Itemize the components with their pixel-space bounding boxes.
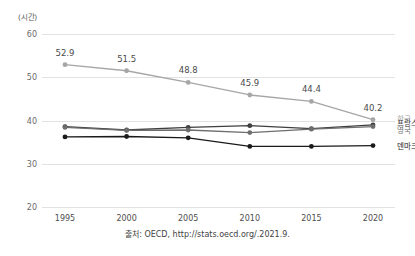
data-point [247, 130, 252, 135]
data-point [186, 128, 191, 133]
y-axis-tick-label: 40 [27, 116, 37, 125]
y-axis-unit-label: (시간) [18, 11, 37, 22]
data-point-label: 52.9 [56, 48, 75, 58]
plot-area: 6050403020 199520002005201020152020 52.9… [42, 34, 395, 207]
data-point [247, 144, 252, 149]
series-영국 [63, 124, 376, 135]
x-axis-tick-label: 2000 [116, 214, 136, 223]
source-caption: 출처: OECD, http://stats.oecd.org/.2021.9. [0, 228, 415, 239]
y-axis-tick-label: 20 [27, 203, 37, 212]
x-axis-tick-label: 2020 [363, 214, 383, 223]
data-point [247, 93, 252, 98]
series-한국 [63, 62, 376, 122]
data-point [309, 99, 314, 104]
data-point [371, 117, 376, 122]
data-point [63, 62, 68, 67]
series-line [65, 65, 373, 120]
y-axis-tick-label: 60 [27, 30, 37, 39]
data-point [309, 144, 314, 149]
x-axis-tick-label: 1995 [55, 214, 75, 223]
series-line [65, 137, 373, 147]
data-point [124, 128, 129, 133]
data-point [63, 135, 68, 140]
chart-container: (시간) 6050403020 199520002005201020152020… [0, 0, 415, 256]
y-axis-tick-label: 30 [27, 159, 37, 168]
gridline [42, 207, 395, 208]
data-point [247, 123, 252, 128]
data-point [63, 125, 68, 130]
x-axis-tick-label: 2015 [301, 214, 321, 223]
series-덴마크 [63, 134, 376, 149]
data-point [309, 127, 314, 132]
x-axis-tick-label: 2005 [178, 214, 198, 223]
data-point [124, 134, 129, 139]
legend-item-덴마크: 덴마크 [397, 143, 415, 151]
data-point-label: 40.2 [364, 103, 383, 113]
x-axis-tick-label: 2010 [240, 214, 260, 223]
data-point-label: 45.9 [240, 78, 259, 88]
data-point-label: 51.5 [117, 54, 136, 64]
data-point-label: 44.4 [302, 84, 321, 94]
data-point-label: 48.8 [179, 65, 198, 75]
data-point [186, 80, 191, 85]
data-point [371, 143, 376, 148]
data-point [124, 68, 129, 73]
series-group [42, 34, 395, 207]
data-point [186, 135, 191, 140]
legend-item-영국: 영국 [397, 127, 411, 135]
data-point [371, 124, 376, 129]
y-axis-tick-label: 50 [27, 73, 37, 82]
